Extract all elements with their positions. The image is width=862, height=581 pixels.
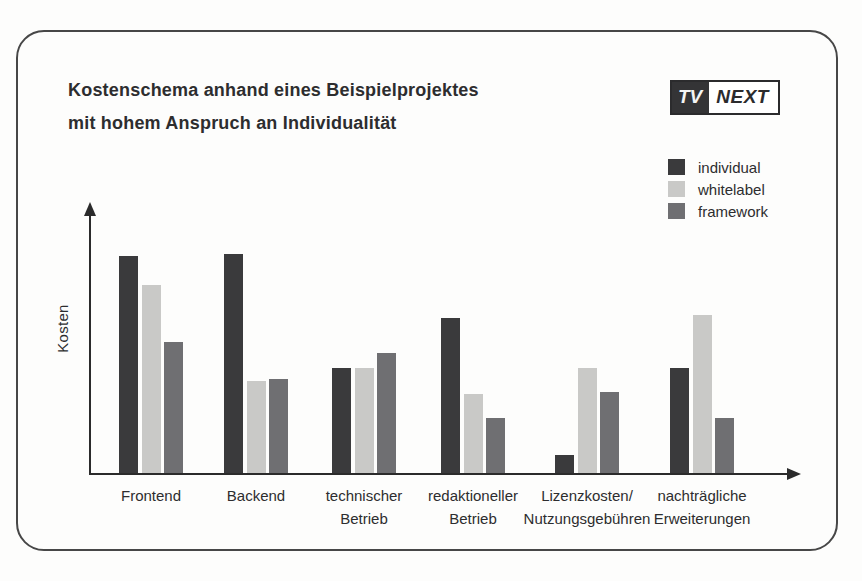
bar-individual-5 xyxy=(555,455,574,473)
x-axis-label-line: nachträgliche xyxy=(617,484,787,507)
bar-whitelabel-5 xyxy=(578,368,597,473)
x-axis-label-line: Erweiterungen xyxy=(617,507,787,530)
bar-individual-6 xyxy=(670,368,689,473)
bar-framework-2 xyxy=(269,379,288,473)
bar-whitelabel-2 xyxy=(247,381,266,473)
y-axis-label: Kosten xyxy=(54,279,71,379)
bar-whitelabel-1 xyxy=(142,285,161,473)
bar-framework-4 xyxy=(486,418,505,473)
bar-individual-2 xyxy=(224,254,243,473)
chart-card: Kostenschema anhand eines Beispielprojek… xyxy=(16,30,838,551)
bar-framework-3 xyxy=(377,353,396,473)
y-axis xyxy=(89,214,91,475)
plot-area: Kosten FrontendBackendtechnischerBetrieb… xyxy=(18,32,836,549)
x-axis-label-6: nachträglicheErweiterungen xyxy=(617,484,787,530)
bar-framework-5 xyxy=(600,392,619,473)
bar-whitelabel-6 xyxy=(693,315,712,473)
bar-individual-4 xyxy=(441,318,460,473)
bar-individual-3 xyxy=(332,368,351,473)
bar-framework-1 xyxy=(164,342,183,473)
bar-individual-1 xyxy=(119,256,138,473)
x-axis xyxy=(89,473,789,475)
y-axis-arrow-icon xyxy=(84,202,96,216)
x-axis-arrow-icon xyxy=(787,468,801,480)
bar-framework-6 xyxy=(715,418,734,473)
bar-whitelabel-4 xyxy=(464,394,483,473)
page: Kostenschema anhand eines Beispielprojek… xyxy=(0,0,862,581)
bar-whitelabel-3 xyxy=(355,368,374,473)
